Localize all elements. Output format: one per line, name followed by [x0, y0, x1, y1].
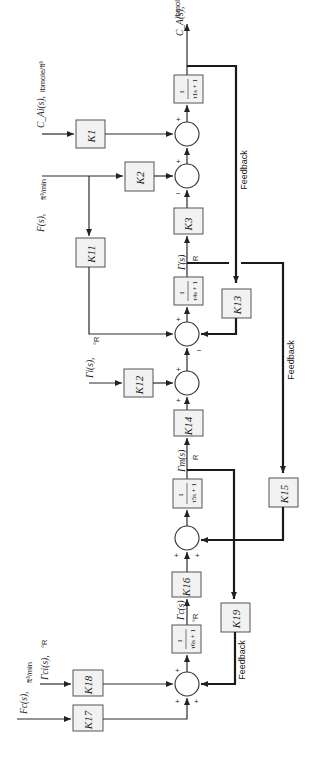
input-fc-label: Fc(s), [19, 692, 30, 715]
input-f-unit: ft³/min [39, 179, 48, 200]
signal-gamma-c-unit: °R [191, 613, 200, 622]
svg-text:K18: K18 [82, 675, 94, 695]
signal-gamma-m-label: Γm(s) [177, 450, 188, 473]
svg-text:K16: K16 [180, 577, 192, 597]
svg-text:K17: K17 [82, 710, 94, 730]
summing-junction-6 [175, 672, 199, 696]
svg-text:+: + [195, 551, 200, 560]
gain-k14-block: K14 [174, 410, 203, 436]
gain-k3-block: K3 [174, 208, 203, 234]
block-diagram: C_A(s), lbmole/ft³ 1 τ1s + 1 + + − K3 Γ(… [0, 0, 310, 769]
gain-k18-block: K18 [73, 670, 103, 696]
svg-text:−: − [176, 189, 181, 198]
tf-tau1-block: 1 τ1s + 1 [174, 75, 203, 103]
svg-text:K11: K11 [85, 245, 97, 264]
svg-text:lbmole/ft³: lbmole/ft³ [173, 0, 182, 18]
svg-text:τ4s + 1: τ4s + 1 [191, 281, 199, 301]
svg-text:+: + [174, 551, 179, 560]
gain-k12-block: K12 [124, 369, 153, 397]
feedback-label-3: Feedback [237, 640, 247, 680]
svg-text:R: R [191, 255, 200, 261]
svg-text:°R: °R [191, 613, 200, 622]
svg-text:K12: K12 [133, 375, 145, 395]
svg-text:C_Ai(s),: C_Ai(s), [36, 96, 47, 128]
feedback-label-1: Feedback [239, 150, 249, 190]
svg-text:Γci(s),: Γci(s), [40, 655, 51, 681]
input-fc-unit: ft³/min [25, 662, 34, 683]
svg-text:K14: K14 [182, 416, 194, 436]
summing-junction-4 [175, 371, 199, 395]
tf-tau5-block: 1 τ5s + 1 [173, 479, 202, 508]
svg-text:K3: K3 [182, 217, 194, 231]
svg-text:K2: K2 [134, 171, 146, 185]
svg-text:Feedback: Feedback [239, 150, 249, 190]
svg-text:Feedback: Feedback [286, 340, 296, 380]
svg-text:τ6s + 1: τ6s + 1 [189, 629, 197, 649]
svg-text:R: R [191, 454, 200, 460]
svg-text:K19: K19 [230, 609, 242, 629]
input-ti-unit: °R [92, 336, 101, 345]
summing-junction-3 [175, 322, 199, 346]
tf-tau6-block: 1 τ6s + 1 [172, 625, 201, 653]
input-cai-unit: lbmole/ft³ [38, 61, 47, 92]
svg-text:+: + [176, 396, 181, 405]
input-ti-label: Γi(s), [85, 358, 96, 379]
input-tci-label: Γci(s), [40, 655, 51, 681]
svg-text:Γc(s): Γc(s) [176, 600, 187, 621]
gain-k16-block: K16 [172, 572, 201, 597]
signal-gamma-c-label: Γc(s) [176, 600, 187, 621]
gain-k19-block: K19 [221, 603, 250, 632]
input-tci-unit: °R [40, 639, 49, 648]
output-unit: lbmole/ft³ [173, 0, 182, 18]
svg-text:+: + [175, 666, 180, 675]
svg-text:1: 1 [177, 493, 185, 497]
input-f-label: F(s), [36, 214, 47, 233]
gain-k13-block: K13 [222, 289, 251, 318]
svg-text:ft³/min: ft³/min [25, 662, 34, 683]
svg-text:+: + [175, 697, 180, 706]
svg-text:+: + [194, 697, 199, 706]
summing-junction-5 [175, 526, 199, 550]
svg-text:°R: °R [92, 336, 101, 345]
svg-text:Feedback: Feedback [237, 640, 247, 680]
svg-text:F(s),: F(s), [36, 214, 47, 233]
summing-junction-1 [175, 122, 199, 146]
summing-junction-2 [175, 164, 199, 188]
gain-k2-block: K2 [125, 162, 154, 191]
svg-text:K13: K13 [231, 295, 243, 315]
svg-text:τ5s + 1: τ5s + 1 [190, 483, 198, 503]
svg-text:+: + [176, 365, 181, 374]
gain-k1-block: K1 [76, 120, 105, 148]
signal-gamma-label: Γ(s) [177, 255, 188, 271]
signal-gamma-unit: R [191, 255, 200, 261]
input-cai-label: C_Ai(s), [36, 96, 47, 128]
svg-text:+: + [176, 315, 181, 324]
svg-text:K1: K1 [85, 130, 97, 144]
signal-gamma-m-unit: R [191, 454, 200, 460]
svg-text:K15: K15 [278, 484, 290, 504]
svg-text:1: 1 [178, 90, 186, 94]
svg-text:+: + [176, 157, 181, 166]
svg-text:Γ(s): Γ(s) [177, 255, 188, 271]
gain-k11-block: K11 [76, 238, 105, 267]
feedback-label-2: Feedback [286, 340, 296, 380]
svg-text:−: − [197, 346, 202, 355]
svg-text:°R: °R [40, 639, 49, 648]
svg-text:1: 1 [178, 291, 186, 295]
svg-text:Γi(s),: Γi(s), [85, 358, 96, 379]
tf-tau4-block: 1 τ4s + 1 [174, 277, 203, 305]
svg-text:ft³/min: ft³/min [39, 179, 48, 200]
svg-text:Fc(s),: Fc(s), [19, 692, 30, 715]
svg-text:+: + [176, 115, 181, 124]
gain-k15-block: K15 [269, 478, 298, 507]
svg-text:1: 1 [176, 639, 184, 643]
svg-text:lbmole/ft³: lbmole/ft³ [38, 61, 47, 92]
svg-text:τ1s + 1: τ1s + 1 [191, 79, 199, 99]
gain-k17-block: K17 [73, 705, 103, 731]
svg-text:Γm(s): Γm(s) [177, 450, 188, 473]
